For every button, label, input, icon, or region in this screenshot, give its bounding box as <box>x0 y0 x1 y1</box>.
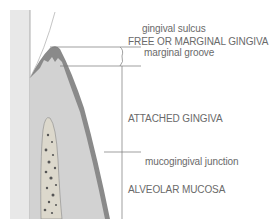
label-attached-gingiva: ATTACHED GINGIVA <box>128 113 223 124</box>
tooth-root <box>10 10 30 219</box>
label-mucogingival-junction: mucogingival junction <box>145 156 239 167</box>
label-free-gingiva: FREE OR MARGINAL GINGIVA <box>128 36 268 47</box>
label-gingival-sulcus: gingival sulcus <box>142 23 206 34</box>
label-alveolar-mucosa: ALVEOLAR MUCOSA <box>128 184 225 195</box>
label-marginal-groove: marginal groove <box>144 47 214 58</box>
